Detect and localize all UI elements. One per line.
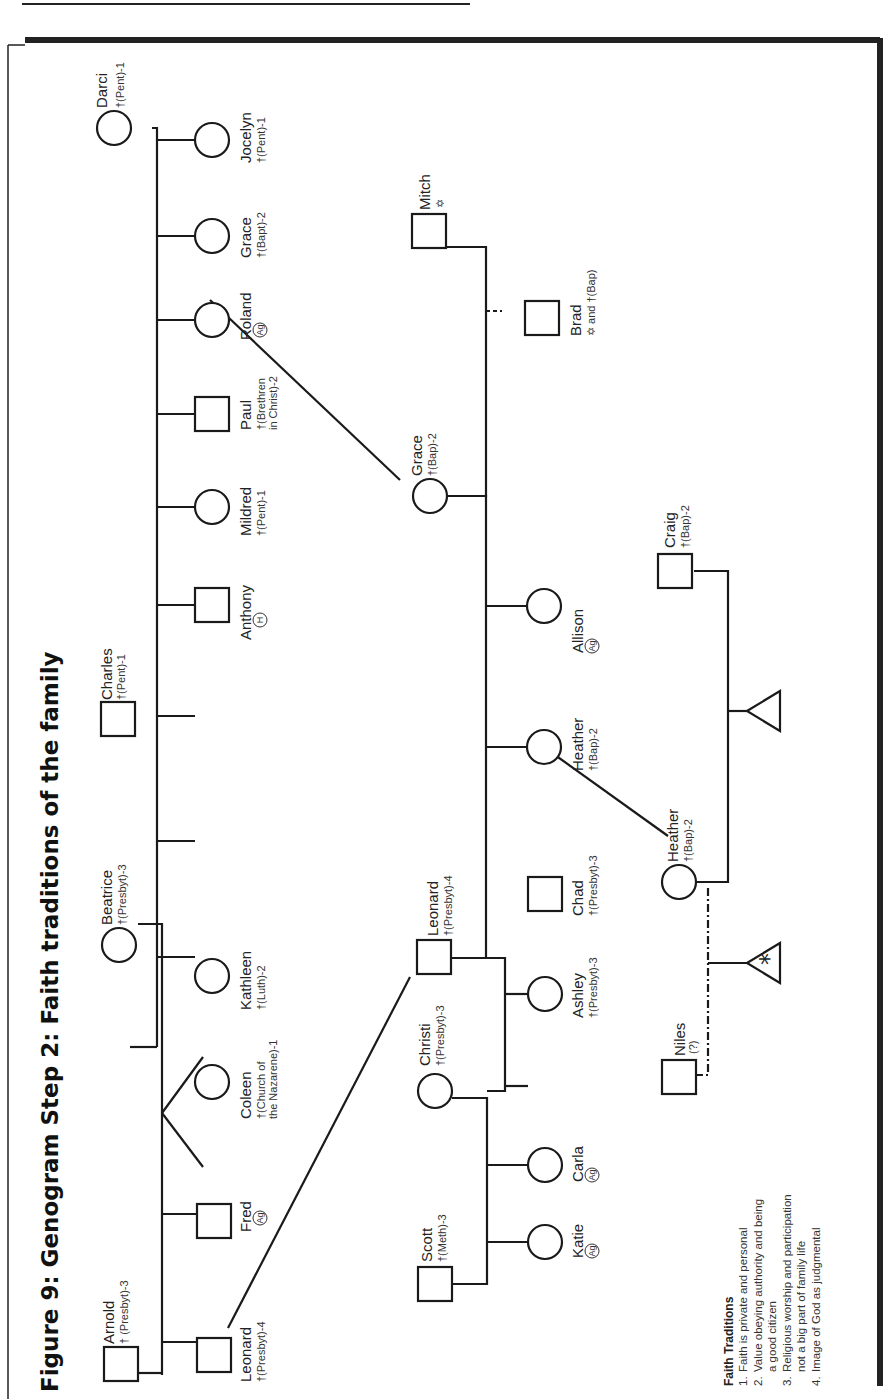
jocelyn-name: Jocelyn [237, 112, 254, 163]
mitch-star-icon: ✡ [434, 199, 446, 208]
charles-faith: †(Pent)-1 [115, 654, 127, 700]
chad-square [528, 877, 562, 911]
roland-name: Roland [237, 292, 254, 340]
christi-name: Christi [416, 1023, 433, 1066]
mitch-square [412, 214, 446, 248]
darci-circle [97, 111, 131, 145]
pregnancy-triangle [747, 691, 780, 731]
carla-circle [528, 1148, 562, 1182]
craig-name: Craig [661, 512, 678, 548]
genogram-diagram: Figure 9: Genogram Step 2: Faith traditi… [0, 0, 887, 1399]
brad-square [525, 301, 559, 335]
arnold-name: Arnold [100, 1301, 117, 1344]
craig-faith: †(Bap)-2 [679, 505, 691, 548]
beatrice-faith: †(Presbyt)-3 [116, 864, 128, 925]
heather-parent-faith: †(Bap)-2 [682, 819, 694, 862]
svg-text:Ag: Ag [255, 324, 265, 335]
carla-name: Carla [569, 1145, 586, 1182]
arnold-square [104, 1347, 138, 1381]
charles-name: Charles [98, 648, 115, 700]
katie-agnostic-badge: Ag [585, 1244, 599, 1258]
heather-parent-name: Heather [664, 809, 681, 862]
christi-faith: †(Presbyt)-3 [434, 1005, 446, 1066]
mildred-circle [195, 490, 229, 524]
legend-item-2-line2: a good citizen [766, 1301, 778, 1372]
jocelyn-circle [195, 123, 229, 157]
scott-faith: †(Meth)-3 [436, 1214, 448, 1262]
faith-traditions-legend: Faith Traditions 1. Faith is private and… [722, 1194, 822, 1386]
person-labels: Darci †(Pent)-1 Jocelyn †(Pent)-1 Grace … [93, 62, 699, 1382]
beatrice-name: Beatrice [98, 870, 115, 925]
roland-agnostic-badge: Ag [253, 323, 267, 337]
heather-child-circle [527, 730, 561, 764]
leonard-child-faith: †(Presbyt)-4 [255, 1321, 267, 1382]
allison-circle [527, 589, 561, 623]
craig-square [658, 554, 692, 588]
beatrice-circle [102, 928, 136, 962]
mildred-name: Mildred [237, 487, 254, 536]
coleen-name: Coleen [237, 1071, 254, 1119]
brad-faith: ✡ and †(Bap) [585, 270, 597, 336]
paul-name: Paul [237, 400, 254, 430]
kathleen-name: Kathleen [237, 951, 254, 1010]
mitch-name: Mitch [416, 174, 433, 210]
paul-faith-line2: in Christ)-2 [267, 376, 279, 430]
anthony-name: Anthony [237, 584, 254, 640]
fred-name: Fred [237, 1201, 254, 1232]
legend-item-2-line1: Value obeying authority and being [752, 1199, 764, 1372]
kathleen-faith: †(Luth)-2 [255, 965, 267, 1010]
charles-square [101, 702, 135, 736]
grace-child-circle [195, 219, 229, 253]
legend-heading: Faith Traditions [722, 1296, 736, 1386]
niles-square [662, 1060, 696, 1094]
niles-faith: (?) [687, 1041, 699, 1054]
asterisk-icon: * [755, 953, 783, 965]
kathleen-circle [195, 959, 229, 993]
legend-item-3-num: 3. [781, 1376, 793, 1386]
legend-item-3-line1: Religious worship and participation [781, 1194, 793, 1372]
paul-square [195, 397, 229, 431]
brad-name: Brad [567, 304, 584, 336]
coleen-faith-line1: †(Church of [255, 1061, 267, 1119]
anthony-square [195, 588, 229, 622]
chad-name: Chad [569, 880, 586, 916]
darci-faith: †(Pent)-1 [114, 62, 126, 108]
carla-agnostic-badge: Ag [585, 1168, 599, 1182]
ashley-circle [528, 977, 562, 1011]
grace-child-faith: †(Bapt)-2 [255, 212, 267, 258]
fred-agnostic-badge: Ag [253, 1211, 267, 1225]
grace-parent-faith: †(Bap)-2 [426, 433, 438, 476]
svg-text:H: H [255, 617, 265, 624]
allison-name: Allison [569, 609, 586, 653]
person-symbols: * [97, 111, 783, 1381]
heather-child-faith: †(Bap)-2 [587, 728, 599, 771]
ashley-faith: †(Presbyt)-3 [587, 957, 599, 1018]
ashley-name: Ashley [569, 972, 586, 1018]
legend-item-2-num: 2. [752, 1376, 764, 1386]
grace-parent-circle [413, 479, 447, 513]
anthony-humanist-badge: H [253, 613, 267, 627]
leonard-child-name: Leonard [237, 1327, 254, 1382]
leonard-parent-faith: †(Presbyt)-4 [442, 875, 454, 936]
mildred-faith: †(Pent)-1 [255, 490, 267, 536]
svg-text:Ag: Ag [587, 640, 597, 651]
heather-parent-circle [662, 865, 696, 899]
chad-faith: †(Presbyt)-3 [587, 855, 599, 916]
christi-circle [418, 1074, 452, 1108]
legend-item-1-num: 1. [737, 1376, 749, 1386]
fred-square [197, 1204, 231, 1238]
roland-circle [195, 303, 229, 337]
katie-name: Katie [569, 1224, 586, 1258]
svg-text:Ag: Ag [587, 1245, 597, 1256]
jocelyn-faith: †(Pent)-1 [255, 117, 267, 163]
leonard-child-square [197, 1338, 231, 1372]
coleen-faith-line2: the Nazarene)-1 [267, 1040, 279, 1120]
darci-name: Darci [93, 73, 110, 108]
allison-agnostic-badge: Ag [585, 639, 599, 653]
legend-item-1-text: Faith is private and personal [737, 1228, 749, 1372]
leonard-parent-name: Leonard [424, 881, 441, 936]
grace-parent-name: Grace [408, 435, 425, 476]
heather-child-name: Heather [569, 718, 586, 771]
katie-circle [528, 1225, 562, 1259]
svg-text:Ag: Ag [255, 1212, 265, 1223]
